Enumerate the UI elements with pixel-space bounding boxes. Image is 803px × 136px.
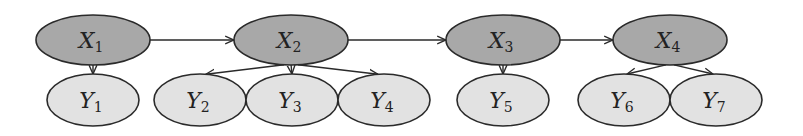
node-y7: Y7 xyxy=(670,74,762,126)
node-subscript: 2 xyxy=(292,39,301,55)
node-y2: Y2 xyxy=(154,74,246,126)
node-variable: X xyxy=(275,28,294,53)
node-subscript: 4 xyxy=(671,39,680,55)
node-subscript: 3 xyxy=(293,99,302,115)
graphical-model-diagram: X1X2X3X4Y1Y2Y3Y4Y5Y6Y7 xyxy=(0,0,803,136)
node-y6: Y6 xyxy=(578,74,670,126)
edge-x2-y3 xyxy=(291,65,292,74)
edge-x4-y6 xyxy=(627,65,666,74)
node-x1: X1 xyxy=(36,15,150,65)
node-subscript: 4 xyxy=(385,99,394,115)
node-subscript: 1 xyxy=(94,99,103,115)
node-x3: X3 xyxy=(446,15,560,65)
node-x2: X2 xyxy=(234,15,348,65)
node-subscript: 1 xyxy=(94,39,103,55)
nodes-layer: X1X2X3X4Y1Y2Y3Y4Y5Y6Y7 xyxy=(36,15,762,126)
node-x4: X4 xyxy=(613,15,727,65)
node-subscript: 3 xyxy=(504,39,513,55)
edge-x2-y4 xyxy=(298,65,378,74)
node-y3: Y3 xyxy=(246,74,338,126)
node-subscript: 6 xyxy=(625,99,634,115)
node-subscript: 7 xyxy=(717,99,726,115)
edge-x2-y2 xyxy=(206,65,284,74)
edge-x4-y7 xyxy=(674,65,713,74)
node-variable: X xyxy=(77,28,96,53)
node-y4: Y4 xyxy=(338,74,430,126)
node-variable: X xyxy=(654,28,673,53)
node-subscript: 2 xyxy=(201,99,210,115)
node-variable: X xyxy=(487,28,506,53)
node-y5: Y5 xyxy=(457,74,549,126)
node-y1: Y1 xyxy=(47,74,139,126)
node-subscript: 5 xyxy=(504,99,513,115)
